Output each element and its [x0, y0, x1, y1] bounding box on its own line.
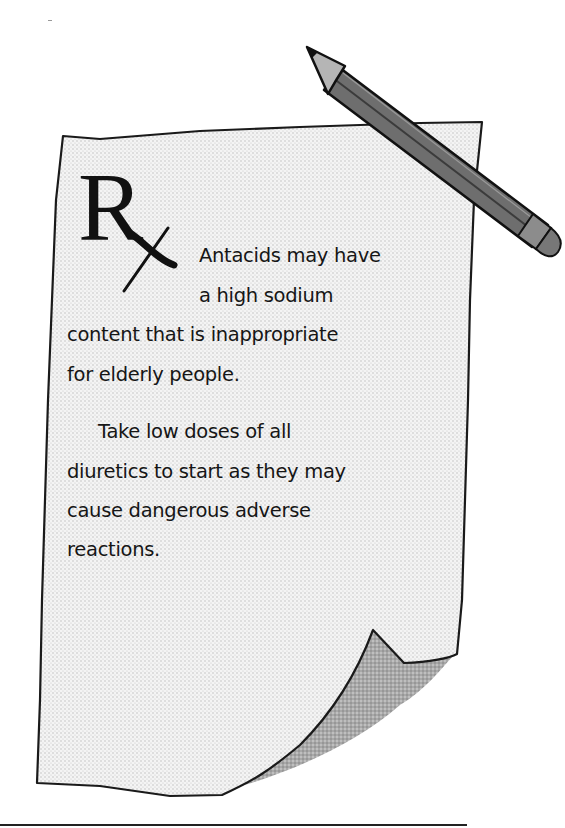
rx-cross-stroke — [78, 158, 198, 298]
text-line: content that is inappropriate — [67, 323, 338, 346]
text-line: for elderly people. — [67, 363, 240, 386]
text-line: diuretics to start as they may — [67, 460, 346, 483]
rx-note-illustration: R Antacids may have a high sodium conten… — [0, 0, 565, 828]
text-line: Antacids may have — [199, 244, 381, 267]
text-line: Take low doses of all — [98, 420, 291, 443]
paper-and-pencil-graphic — [0, 0, 565, 828]
text-line: a high sodium — [199, 284, 333, 307]
horizontal-rule — [0, 824, 467, 826]
text-line: cause dangerous adverse — [67, 499, 311, 522]
text-line: reactions. — [67, 538, 160, 561]
prescription-rx-symbol: R — [78, 158, 188, 278]
